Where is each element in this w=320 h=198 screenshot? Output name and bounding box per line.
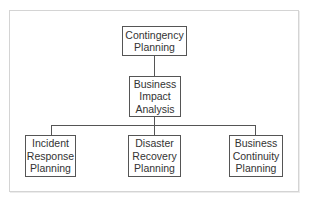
- node-label: Planning: [236, 162, 277, 175]
- connector-root-to-bia: [154, 55, 155, 76]
- node-label: Impact: [139, 90, 171, 103]
- node-incident-response-planning: Incident Response Planning: [25, 135, 76, 177]
- connector-to-incident: [51, 125, 52, 135]
- connector-horizontal: [51, 125, 256, 126]
- node-business-continuity-planning: Business Continuity Planning: [229, 135, 283, 177]
- node-label: Planning: [30, 162, 71, 175]
- node-label: Analysis: [135, 103, 174, 116]
- node-disaster-recovery-planning: Disaster Recovery Planning: [128, 135, 181, 177]
- node-label: Planning: [134, 162, 175, 175]
- node-label: Incident: [32, 137, 69, 150]
- node-label: Continuity: [233, 150, 280, 163]
- node-business-impact-analysis: Business Impact Analysis: [129, 76, 181, 117]
- node-label: Business: [134, 78, 177, 91]
- node-label: Business: [235, 137, 278, 150]
- node-label: Planning: [134, 41, 175, 54]
- node-label: Contingency: [125, 29, 183, 42]
- node-label: Disaster: [135, 137, 174, 150]
- node-contingency-planning: Contingency Planning: [122, 26, 187, 56]
- node-label: Response: [27, 150, 74, 163]
- node-label: Recovery: [132, 150, 176, 163]
- connector-to-continuity: [255, 125, 256, 135]
